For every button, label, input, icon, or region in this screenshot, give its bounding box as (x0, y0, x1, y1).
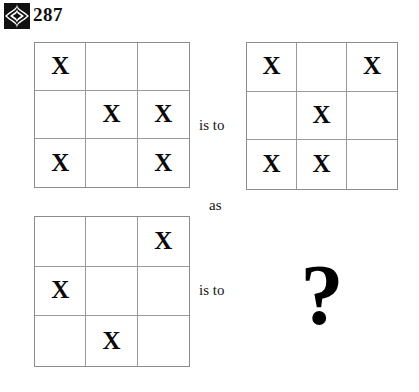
cell-mark: X (312, 151, 330, 176)
cell-mark: X (154, 101, 172, 126)
grid-b-cell-r3c1: X (247, 140, 297, 189)
cell-mark: X (51, 150, 69, 175)
grid-a-cell-r3c1: X (35, 139, 86, 187)
grid-b-cell-r1c1: X (247, 43, 297, 92)
grid-c-cell-r1c3: X (138, 217, 189, 267)
cell-mark: X (262, 53, 280, 78)
grid-c-cell-r2c2 (86, 267, 137, 317)
cell-mark: X (363, 53, 381, 78)
cell-mark: X (154, 228, 172, 253)
cell-mark: X (51, 53, 69, 78)
analogy-grid-a: X X X X X (34, 42, 190, 188)
connector-as: as (209, 197, 222, 214)
grid-c-cell-r1c2 (86, 217, 137, 267)
grid-b-cell-r2c1 (247, 92, 297, 141)
grid-a-cell-r1c3 (138, 43, 189, 91)
grid-a-cell-r3c2 (86, 139, 137, 187)
grid-c-cell-r2c3 (138, 267, 189, 317)
grid-a-cell-r2c2: X (86, 91, 137, 139)
grid-b-cell-r2c2: X (297, 92, 347, 141)
cell-mark: X (154, 150, 172, 175)
grid-b-cell-r1c2 (297, 43, 347, 92)
grid-c-cell-r2c1: X (35, 267, 86, 317)
analogy-grid-b: X X X X X (246, 42, 398, 190)
grid-c-cell-r3c1 (35, 316, 86, 366)
star-diamond-ornament-icon (4, 3, 30, 29)
grid-c-cell-r3c3 (138, 316, 189, 366)
grid-a-cell-r1c1: X (35, 43, 86, 91)
connector-is-to-first: is to (199, 117, 224, 134)
grid-a-cell-r3c3: X (138, 139, 189, 187)
grid-c-cell-r1c1 (35, 217, 86, 267)
cell-mark: X (102, 328, 120, 353)
page-number: 287 (33, 4, 63, 26)
cell-mark: X (312, 102, 330, 127)
connector-is-to-second: is to (199, 282, 224, 299)
grid-b-cell-r3c3 (347, 140, 397, 189)
answer-question-mark: ? (296, 252, 348, 338)
grid-b-cell-r3c2: X (297, 140, 347, 189)
grid-a-cell-r2c1 (35, 91, 86, 139)
cell-mark: X (262, 151, 280, 176)
page-header: 287 (0, 0, 419, 34)
grid-c-cell-r3c2: X (86, 316, 137, 366)
grid-b-cell-r1c3: X (347, 43, 397, 92)
grid-b-cell-r2c3 (347, 92, 397, 141)
cell-mark: X (51, 277, 69, 302)
cell-mark: X (102, 101, 120, 126)
grid-a-cell-r1c2 (86, 43, 137, 91)
analogy-grid-c: X X X (34, 216, 190, 367)
grid-a-cell-r2c3: X (138, 91, 189, 139)
